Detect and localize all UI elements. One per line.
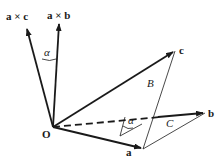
angle-arc-bottom — [123, 126, 133, 129]
label-a: a — [126, 146, 132, 158]
label-alpha-bottom: α — [128, 114, 134, 126]
label-face-C: C — [166, 117, 174, 129]
vector-diagram: a × c a × b α O c b a B C α — [0, 0, 223, 162]
vector-a-cross-c — [27, 29, 53, 127]
angle-arc-top — [42, 59, 56, 61]
label-origin: O — [42, 128, 51, 140]
label-face-B: B — [147, 77, 154, 89]
label-c: c — [179, 44, 184, 56]
label-a-cross-c: a × c — [6, 10, 28, 22]
edge-a-c — [143, 51, 175, 149]
vector-b-dashed — [53, 117, 160, 127]
vector-a-cross-b — [53, 24, 59, 127]
vector-b — [158, 113, 203, 117]
label-b: b — [208, 107, 214, 119]
label-a-cross-b: a × b — [47, 9, 70, 21]
label-alpha-top: α — [44, 46, 50, 58]
vector-a — [53, 127, 141, 148]
vector-c — [53, 52, 173, 127]
